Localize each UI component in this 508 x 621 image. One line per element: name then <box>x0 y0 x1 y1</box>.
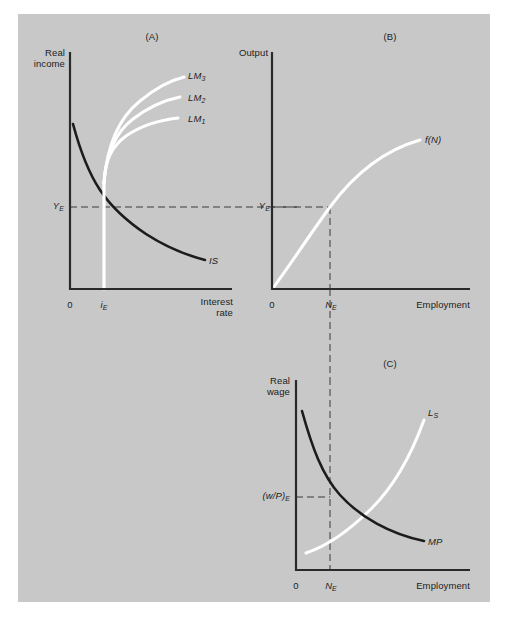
panel-a-y-axis-label-line1: Real <box>10 47 65 58</box>
panel-c-tag: (C) <box>360 358 420 369</box>
panel-b-production-function-label: f(N) <box>425 134 465 145</box>
panel-b-x-tick-label: NE <box>318 299 344 311</box>
panel-b-tag: (B) <box>360 31 420 42</box>
panel-a-is-label: IS <box>209 255 239 266</box>
panel-c-y-axis-label-line1: Real <box>240 375 290 386</box>
panel-a-lm2-label: LM2 <box>188 92 228 104</box>
panel-a-is-curve <box>73 124 205 260</box>
panel-a-y-tick-label: YE <box>30 200 64 212</box>
panel-a-tag: (A) <box>122 31 182 42</box>
panel-b-y-tick-label: YE <box>236 200 270 212</box>
panel-a-y-axis-label-line2: income <box>10 58 65 69</box>
panel-b-origin-label: 0 <box>260 299 284 310</box>
panel-a-lm3-curve <box>104 77 184 183</box>
panel-c-origin-label: 0 <box>284 580 308 591</box>
panel-a-x-axis-label-line1: Interest <box>175 296 233 307</box>
panel-c-x-axis-label: Employment <box>396 580 470 591</box>
panel-a-lm1-label: LM1 <box>188 113 228 125</box>
panel-a-lm2-curve <box>104 97 180 183</box>
panel-c-labour-supply-label: LS <box>428 407 462 419</box>
panel-c-y-axis-label-line2: wage <box>240 386 290 397</box>
panel-a-lm3-label: LM3 <box>188 70 228 82</box>
panel-a-lm1-curve <box>104 118 178 183</box>
figure-vector-layer <box>0 0 508 621</box>
panel-c-marginal-product-curve <box>302 411 424 541</box>
panel-a-x-axis-label-line2: rate <box>175 307 233 318</box>
panel-b-production-function-curve <box>273 140 420 288</box>
panel-a-origin-label: 0 <box>58 299 82 310</box>
panel-b-group <box>272 52 470 290</box>
panel-a-x-tick-label: iE <box>92 299 116 311</box>
figure-root: (A) Real income YE 0 iE Interest rate LM… <box>0 0 508 621</box>
panel-a-group <box>70 52 300 290</box>
panel-c-x-tick-label: NE <box>318 580 344 592</box>
panel-c-marginal-product-label: MP <box>428 536 462 547</box>
panel-c-y-tick-label: (w/P)E <box>228 490 290 502</box>
panel-c-labour-supply-curve <box>306 420 424 553</box>
panel-b-x-axis-label: Employment <box>396 299 470 310</box>
panel-b-y-axis-label: Output <box>239 47 294 58</box>
